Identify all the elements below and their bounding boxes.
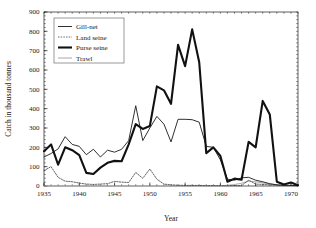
y-tick-label: 600 bbox=[29, 66, 40, 74]
y-tick-label: 300 bbox=[29, 124, 40, 132]
chart-figure: 0100200300400500600700800900 19351940194… bbox=[0, 0, 316, 228]
x-tick-label: 1935 bbox=[37, 190, 52, 198]
x-axis-title: Year bbox=[164, 214, 178, 223]
y-tick-label: 900 bbox=[29, 8, 40, 16]
y-tick-label: 200 bbox=[29, 144, 40, 152]
legend-label-gill-net: Gill-net bbox=[76, 23, 98, 31]
x-tick-label: 1960 bbox=[213, 190, 228, 198]
y-axis-title: Catch in thousand tonnes bbox=[4, 61, 13, 137]
x-tick-label: 1955 bbox=[178, 190, 193, 198]
x-tick-label: 1950 bbox=[143, 190, 158, 198]
chart-legend: Gill-net Land seine Purse seine Trawl bbox=[54, 18, 124, 63]
legend-label-trawl: Trawl bbox=[76, 55, 93, 63]
x-tick-label: 1940 bbox=[72, 190, 87, 198]
legend-label-purse-seine: Purse seine bbox=[76, 44, 108, 52]
x-tick-label: 1945 bbox=[108, 190, 123, 198]
y-tick-label: 700 bbox=[29, 47, 40, 55]
y-tick-label: 100 bbox=[29, 163, 40, 171]
legend-label-land-seine: Land seine bbox=[76, 34, 107, 42]
line-chart: 0100200300400500600700800900 19351940194… bbox=[0, 0, 316, 228]
y-tick-label: 500 bbox=[29, 86, 40, 94]
y-tick-label: 400 bbox=[29, 105, 40, 113]
x-tick-label: 1965 bbox=[249, 190, 264, 198]
y-tick-label: 800 bbox=[29, 28, 40, 36]
x-tick-label: 1970 bbox=[284, 190, 299, 198]
